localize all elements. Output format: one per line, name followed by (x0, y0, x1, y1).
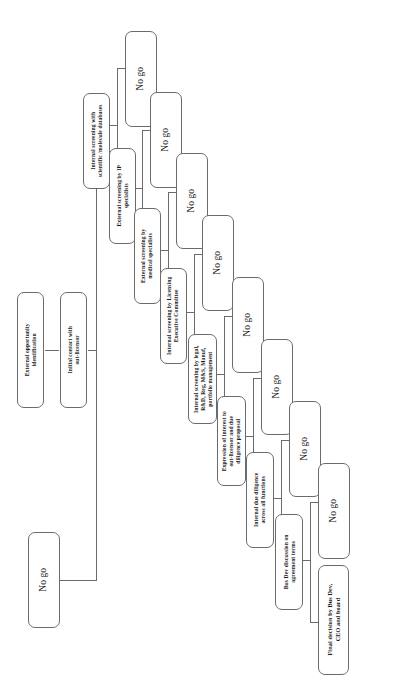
node-label: External opportunity identification (24, 324, 38, 377)
node-label: Internal screening by Licensing Executiv… (167, 277, 181, 355)
connector-n10-out (303, 560, 311, 561)
node-initial-contact-with-out-licensor[interactable]: Initial contact with out-licensor (60, 292, 87, 408)
node-internal-screening-by-licensing-executive-committee[interactable]: Internal screening by Licensing Executiv… (160, 268, 187, 364)
connector-n8-out (246, 436, 254, 437)
connector-n2-nogo (60, 580, 97, 581)
node-bus-dev-discussion-on-agreement-terms[interactable]: Bus Dev discussion on agreement terms (275, 514, 303, 610)
node-final-decision-by-bus-dev-ceo-and-board[interactable]: Final decision by Bus Dev, CEO and board (318, 565, 349, 675)
node-label: No go (38, 568, 50, 592)
node-no-go-7[interactable]: No go (289, 401, 321, 497)
connector-n10-to-ng8 (310, 502, 318, 503)
node-label: No go (299, 437, 311, 461)
connector-n9-out (274, 498, 282, 499)
node-label: External screening by IP specialists (116, 165, 130, 227)
node-label: Internal due diligence across all functi… (253, 473, 267, 527)
node-label: No go (271, 375, 283, 399)
connector-n8-to-ng6 (253, 378, 261, 379)
connector-n3-out (110, 125, 118, 126)
node-no-go-9[interactable]: No go (28, 532, 60, 628)
node-label: No go (135, 67, 147, 91)
flowchart-canvas: External opportunity identification Init… (0, 0, 402, 685)
node-external-screening-by-ip-specialists[interactable]: External screening by IP specialists (109, 148, 136, 244)
node-expression-of-interest-due-diligence-proposal[interactable]: Expression of interest to out-licensor a… (217, 396, 246, 486)
node-no-go-4[interactable]: No go (202, 215, 234, 311)
connector-n5-to-ng3 (168, 192, 176, 193)
connector-n7-to-ng5 (224, 316, 232, 317)
connector-n10-branch (310, 502, 311, 622)
connector-n2-to-spine (88, 350, 97, 351)
connector-n6-out (187, 312, 195, 313)
node-external-opportunity-identification[interactable]: External opportunity identification (17, 292, 44, 408)
node-label: Initial contact with out-licensor (67, 326, 81, 373)
connector-n4-out (136, 188, 143, 189)
node-label: No go (242, 313, 254, 337)
node-label: Internal screening by legal, R&D, Reg, M… (192, 345, 212, 413)
node-label: No go (212, 251, 224, 275)
node-label: Internal screening with scientific /mole… (90, 105, 104, 178)
connector-n7-out (217, 374, 225, 375)
node-label: No go (186, 189, 198, 213)
connector-n3-to-ng1 (117, 68, 125, 69)
connector-n5-out (161, 250, 169, 251)
node-external-screening-by-medical-specialists[interactable]: External screening by medical specialist… (134, 208, 161, 304)
connector-n6-to-ng4 (194, 254, 202, 255)
node-internal-screening-by-legal-rd-reg-ms-manuf-portfolio[interactable]: Internal screening by legal, R&D, Reg, M… (188, 334, 217, 424)
node-label: Final decision by Bus Dev, CEO and board (326, 584, 341, 656)
connector-n9-to-ng7 (281, 440, 289, 441)
node-label: External screening by medical specialist… (141, 229, 155, 283)
node-internal-due-diligence-across-all-functions[interactable]: Internal due diligence across all functi… (246, 452, 274, 548)
connector-n4-to-ng2 (142, 130, 150, 131)
node-no-go-8[interactable]: No go (318, 463, 350, 559)
connector-n10-to-n11 (310, 622, 318, 623)
connector-n1-n2 (45, 350, 59, 351)
connector-n2-spine (96, 125, 97, 580)
node-label: Bus Dev discussion on agreement terms (282, 535, 296, 590)
node-label: No go (160, 128, 172, 152)
node-no-go-5[interactable]: No go (232, 277, 264, 373)
node-label: Expression of interest to out-licensor a… (221, 411, 241, 471)
node-internal-screening-scientific-molecule-databases[interactable]: Internal screening with scientific /mole… (83, 93, 110, 189)
node-label: No go (328, 499, 340, 523)
